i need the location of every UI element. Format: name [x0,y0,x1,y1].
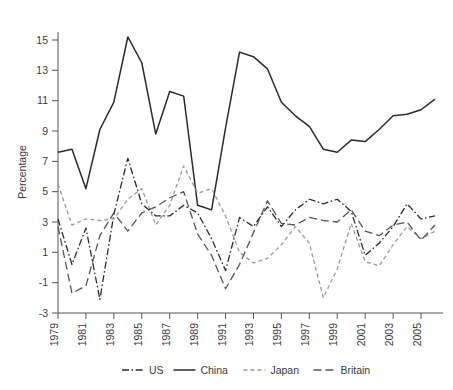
y-tick-label: -3 [39,307,48,319]
x-tick-label: 1985 [132,323,144,347]
x-tick-label: 1979 [48,323,60,347]
x-tick-label: 1999 [327,323,339,347]
x-tick-label: 1997 [299,323,311,347]
y-tick-label: 7 [42,155,48,167]
x-axis-ticks: 1979198119831985198719891991199319951997… [48,313,423,346]
legend-label-japan: Japan [270,364,299,376]
x-tick-label: 1983 [104,323,116,347]
x-tick-label: 1995 [271,323,283,347]
y-tick-label: -1 [39,276,48,288]
x-tick-label: 2001 [355,323,367,347]
y-axis-ticks: 15131197531-1-3 [36,34,58,319]
y-tick-label: 3 [42,216,48,228]
x-tick-label: 1981 [76,323,88,347]
series-line-us [58,158,435,299]
legend-label-britain: Britain [340,364,370,376]
x-tick-label: 1987 [160,323,172,347]
y-tick-label: 1 [42,246,48,258]
y-tick-label: 5 [42,185,48,197]
series-line-britain [58,192,435,294]
x-tick-label: 2003 [383,323,395,347]
y-tick-label: 9 [42,125,48,137]
line-chart: 15131197531-1-3 197919811983198519871989… [0,0,453,390]
y-tick-label: 13 [36,64,48,76]
chart-canvas: 15131197531-1-3 197919811983198519871989… [0,0,453,390]
series-line-japan [58,166,435,298]
x-tick-label: 1993 [243,323,255,347]
series-group [58,37,435,299]
x-tick-label: 2005 [411,323,423,347]
chart-legend: USChinaJapanBritain [122,364,370,376]
series-line-china [58,37,435,210]
x-tick-label: 1991 [216,323,228,347]
y-axis-label: Percentage [16,145,28,199]
y-tick-label: 11 [37,94,48,106]
legend-label-us: US [149,364,164,376]
legend-label-china: China [200,364,228,376]
x-tick-label: 1989 [188,323,200,347]
y-tick-label: 15 [36,34,48,46]
